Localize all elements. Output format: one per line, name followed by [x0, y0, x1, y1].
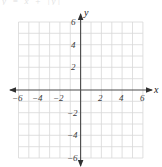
y-tick-label--4: −4 [67, 131, 78, 140]
y-tick-label-4: 4 [71, 41, 76, 50]
x-tick-label-6: 6 [140, 94, 145, 103]
y-tick-label-2: 2 [71, 63, 76, 72]
coordinate-plane-figure: y = x + |y| [0, 0, 162, 167]
x-tick-label-2: 2 [98, 94, 103, 103]
y-axis-top-arrowhead [78, 13, 84, 20]
coordinate-grid-svg [0, 0, 162, 167]
x-axis-label: x [154, 85, 158, 95]
x-tick-label--4: −4 [32, 94, 43, 103]
x-axis-left-arrowhead [9, 87, 16, 93]
y-tick-label--2: −2 [67, 109, 78, 118]
x-axis-right-arrowhead [146, 87, 153, 93]
x-tick-label--6: −6 [12, 94, 23, 103]
x-tick-label-4: 4 [119, 94, 124, 103]
y-axis-label: y [84, 8, 88, 18]
y-tick-label--6: −6 [67, 154, 78, 163]
y-tick-label-6: 6 [71, 18, 76, 27]
y-axis-bottom-arrowhead [78, 160, 84, 167]
x-tick-label--2: −2 [53, 94, 64, 103]
